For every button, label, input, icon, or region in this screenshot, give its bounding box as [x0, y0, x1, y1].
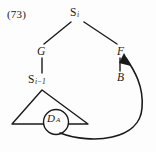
node-left-grandchild: Si−1 [28, 74, 46, 86]
movement-arrow-path [60, 58, 142, 139]
node-root: Si [70, 7, 79, 19]
node-circled: DA [47, 113, 60, 124]
node-right-grandchild: B [117, 72, 124, 84]
node-left-child-label: G [37, 45, 45, 57]
node-root-subscript: i [76, 10, 79, 19]
tree-diagram-svg [0, 0, 156, 152]
node-circled-subscript: A [55, 116, 60, 124]
node-right-child-label: F [117, 45, 124, 57]
figure-container: (73) Si G F B Si−1 DA [0, 0, 156, 152]
node-right-child: F [117, 46, 124, 58]
example-number: (73) [7, 9, 26, 20]
node-circled-label: D [47, 112, 55, 124]
node-left-child: G [37, 46, 45, 58]
edge-root-to-left-child [44, 22, 71, 44]
node-right-grandchild-label: B [117, 71, 124, 83]
node-left-grandchild-subscript: i−1 [34, 77, 45, 86]
edge-root-to-right-child [84, 22, 117, 44]
